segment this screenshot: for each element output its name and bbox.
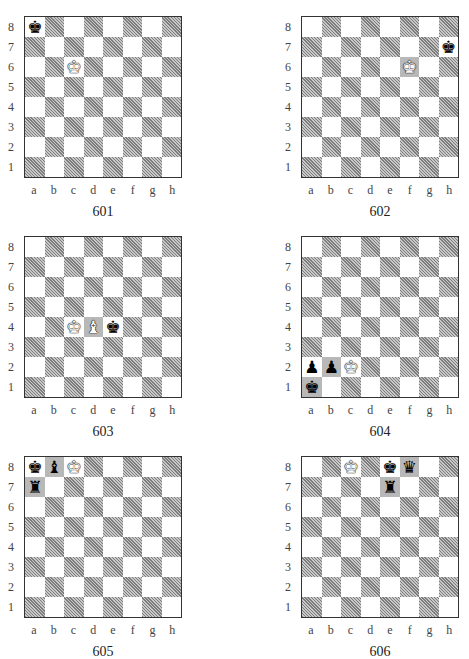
square-b2[interactable]: ♟	[322, 357, 342, 377]
square-e2[interactable]	[103, 577, 123, 597]
square-a1[interactable]: ♚	[302, 377, 322, 397]
square-a7[interactable]: ♜	[25, 477, 45, 497]
square-h6[interactable]	[162, 277, 182, 297]
square-e4[interactable]	[380, 317, 400, 337]
square-c8[interactable]	[341, 237, 361, 257]
square-h5[interactable]	[439, 297, 459, 317]
square-d6[interactable]	[361, 497, 381, 517]
square-f1[interactable]	[123, 157, 143, 177]
square-e7[interactable]: ♜	[380, 477, 400, 497]
square-h2[interactable]	[439, 577, 459, 597]
square-b3[interactable]	[45, 557, 65, 577]
square-d8[interactable]	[84, 457, 104, 477]
square-b8[interactable]: ♝	[45, 457, 65, 477]
square-h1[interactable]	[162, 597, 182, 617]
square-b2[interactable]	[322, 137, 342, 157]
square-b7[interactable]	[45, 257, 65, 277]
square-b6[interactable]	[322, 497, 342, 517]
square-b2[interactable]	[45, 137, 65, 157]
square-e4[interactable]: ♚	[103, 317, 123, 337]
square-d5[interactable]	[361, 517, 381, 537]
square-a4[interactable]	[25, 537, 45, 557]
square-a4[interactable]	[302, 537, 322, 557]
square-f2[interactable]	[123, 357, 143, 377]
square-h1[interactable]	[162, 377, 182, 397]
square-d8[interactable]	[361, 457, 381, 477]
square-h5[interactable]	[162, 77, 182, 97]
square-c4[interactable]	[64, 97, 84, 117]
square-f4[interactable]	[123, 537, 143, 557]
square-h1[interactable]	[439, 597, 459, 617]
square-a3[interactable]	[302, 337, 322, 357]
square-e8[interactable]	[103, 457, 123, 477]
square-e7[interactable]	[380, 37, 400, 57]
square-h5[interactable]	[439, 517, 459, 537]
square-g3[interactable]	[142, 117, 162, 137]
square-a8[interactable]	[25, 237, 45, 257]
square-h3[interactable]	[162, 117, 182, 137]
square-f6[interactable]	[400, 277, 420, 297]
square-c2[interactable]	[64, 357, 84, 377]
square-h2[interactable]	[162, 577, 182, 597]
square-d3[interactable]	[84, 117, 104, 137]
square-g8[interactable]	[142, 457, 162, 477]
square-f5[interactable]	[123, 297, 143, 317]
square-e3[interactable]	[103, 337, 123, 357]
square-c4[interactable]	[64, 537, 84, 557]
square-f4[interactable]	[123, 317, 143, 337]
square-c5[interactable]	[341, 77, 361, 97]
square-a6[interactable]	[302, 277, 322, 297]
square-a2[interactable]	[25, 137, 45, 157]
square-c5[interactable]	[341, 297, 361, 317]
square-b4[interactable]	[45, 317, 65, 337]
square-b2[interactable]	[45, 357, 65, 377]
square-d8[interactable]	[84, 237, 104, 257]
square-e5[interactable]	[380, 297, 400, 317]
square-c6[interactable]	[341, 57, 361, 77]
square-a4[interactable]	[25, 97, 45, 117]
square-f2[interactable]	[400, 137, 420, 157]
square-e2[interactable]	[380, 137, 400, 157]
square-h4[interactable]	[162, 97, 182, 117]
square-e3[interactable]	[380, 337, 400, 357]
square-d1[interactable]	[361, 157, 381, 177]
square-b6[interactable]	[322, 57, 342, 77]
square-g3[interactable]	[142, 337, 162, 357]
square-g7[interactable]	[142, 37, 162, 57]
square-h1[interactable]	[162, 157, 182, 177]
square-a5[interactable]	[302, 517, 322, 537]
square-f3[interactable]	[400, 117, 420, 137]
square-c5[interactable]	[64, 77, 84, 97]
square-d4[interactable]	[361, 317, 381, 337]
square-f8[interactable]: ♛	[400, 457, 420, 477]
square-g4[interactable]	[142, 97, 162, 117]
square-e8[interactable]	[380, 17, 400, 37]
square-a1[interactable]	[25, 157, 45, 177]
square-d5[interactable]	[84, 297, 104, 317]
square-h5[interactable]	[439, 77, 459, 97]
black-king-icon[interactable]: ♚	[27, 19, 42, 36]
square-g1[interactable]	[419, 377, 439, 397]
square-c8[interactable]	[64, 17, 84, 37]
square-g8[interactable]	[419, 457, 439, 477]
square-a6[interactable]	[302, 57, 322, 77]
square-c6[interactable]	[341, 497, 361, 517]
square-a7[interactable]	[302, 257, 322, 277]
square-c1[interactable]	[64, 597, 84, 617]
square-d6[interactable]	[84, 57, 104, 77]
square-d4[interactable]	[361, 97, 381, 117]
square-b1[interactable]	[322, 157, 342, 177]
square-e5[interactable]	[380, 517, 400, 537]
square-f4[interactable]	[400, 537, 420, 557]
square-c4[interactable]	[341, 97, 361, 117]
square-f8[interactable]	[400, 17, 420, 37]
square-c7[interactable]	[341, 257, 361, 277]
square-b3[interactable]	[45, 117, 65, 137]
square-g1[interactable]	[142, 377, 162, 397]
square-f2[interactable]	[400, 357, 420, 377]
square-e7[interactable]	[103, 37, 123, 57]
square-f5[interactable]	[400, 77, 420, 97]
square-a4[interactable]	[25, 317, 45, 337]
square-b5[interactable]	[45, 77, 65, 97]
square-f3[interactable]	[123, 337, 143, 357]
